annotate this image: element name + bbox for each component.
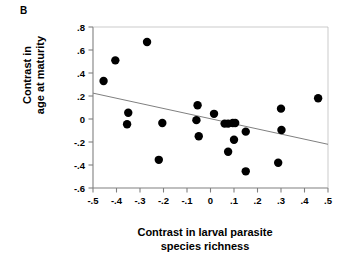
x-tick-label-6: .1 [230, 195, 239, 206]
x-tick-label-10: .5 [324, 195, 333, 206]
x-tick-label-0: -.5 [87, 195, 99, 206]
x-tick-label-2: -.3 [134, 195, 145, 206]
y-tick-label-4: .2 [77, 91, 85, 102]
data-point [224, 148, 232, 156]
y-tick-label-2: -.2 [74, 137, 85, 148]
data-point [277, 104, 285, 112]
y-tick-label-1: -.4 [74, 160, 86, 171]
data-point [192, 116, 200, 124]
data-point [193, 101, 201, 109]
regression-trendline [93, 93, 328, 144]
x-tick-label-5: 0 [208, 195, 213, 206]
data-point [143, 38, 151, 46]
x-tick-label-9: .4 [301, 195, 310, 206]
y-tick-label-0: -.6 [74, 183, 85, 194]
data-point [231, 119, 239, 127]
data-point [155, 156, 163, 164]
y-tick-label-6: .6 [77, 45, 85, 56]
data-point [124, 108, 132, 116]
data-point [274, 159, 282, 167]
y-tick-label-7: .8 [77, 22, 85, 33]
data-point [195, 132, 203, 140]
y-tick-label-3: 0 [80, 114, 85, 125]
x-tick-label-7: .2 [254, 195, 262, 206]
tick-marks-group [89, 27, 329, 193]
figure-panel-b: B Contrast in age at maturity Contrast i… [0, 0, 351, 266]
x-tick-label-1: -.4 [111, 195, 123, 206]
tick-labels-group: -.5-.4-.3-.2-.10.1.2.3.4.5-.6-.4-.20.2.4… [74, 22, 333, 207]
data-point [242, 127, 250, 135]
data-point [158, 119, 166, 127]
x-tick-label-8: .3 [277, 195, 285, 206]
x-tick-label-4: -.1 [181, 195, 193, 206]
data-point [314, 94, 322, 102]
axes-group [93, 27, 328, 188]
data-point [99, 77, 107, 85]
data-point [242, 167, 250, 175]
data-points-group [99, 38, 322, 176]
data-point [277, 126, 285, 134]
trendline-group [93, 93, 328, 144]
y-tick-label-5: .4 [77, 68, 86, 79]
x-tick-label-3: -.2 [158, 195, 169, 206]
data-point [230, 136, 238, 144]
data-point [123, 120, 131, 128]
data-point [210, 110, 218, 118]
scatter-plot: -.5-.4-.3-.2-.10.1.2.3.4.5-.6-.4-.20.2.4… [0, 0, 351, 266]
data-point [111, 56, 119, 64]
